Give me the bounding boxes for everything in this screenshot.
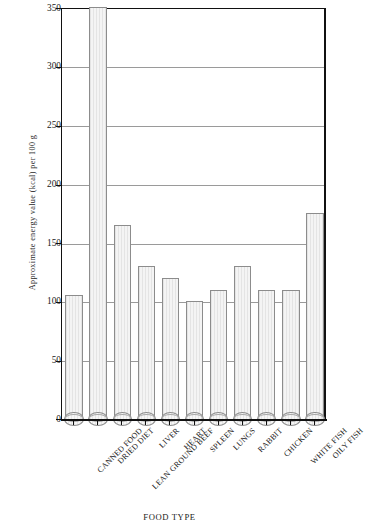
bar-series (62, 9, 324, 419)
x-tickmark (97, 421, 98, 425)
bar-body (89, 7, 106, 419)
x-tickmark (169, 421, 170, 425)
bar (162, 278, 179, 419)
bar-body (210, 290, 227, 419)
bar-body (114, 225, 131, 419)
bar-body (138, 266, 155, 419)
x-tickmark (242, 421, 243, 425)
bar-body (282, 290, 299, 419)
bar-body (65, 295, 82, 419)
bar (138, 266, 155, 419)
bar (114, 225, 131, 419)
x-tick-label: CHICKEN (282, 426, 315, 459)
bar (234, 266, 251, 419)
plot-area (61, 8, 326, 420)
bar (186, 301, 203, 419)
bar-body (234, 266, 251, 419)
x-tickmark (290, 421, 291, 425)
bar (306, 213, 323, 419)
bar-body (186, 301, 203, 419)
x-tickmark (314, 421, 315, 425)
bar (65, 295, 82, 419)
bar-body (162, 278, 179, 419)
bar (210, 290, 227, 419)
bar-body (258, 290, 275, 419)
bar-body (306, 213, 323, 419)
x-axis-title: FOOD TYPE (0, 512, 339, 522)
x-tickmark (266, 421, 267, 425)
x-tickmark (145, 421, 146, 425)
x-tickmark (73, 421, 74, 425)
bar (282, 290, 299, 419)
x-tick-label: LIVER (158, 426, 182, 450)
x-tickmark (121, 421, 122, 425)
x-tickmark (218, 421, 219, 425)
bar (89, 7, 106, 419)
x-tick-label: RABBIT (256, 426, 284, 454)
x-tickmark (194, 421, 195, 425)
x-tick-label: LEAN GROUND BEEF (151, 426, 216, 491)
bar (258, 290, 275, 419)
